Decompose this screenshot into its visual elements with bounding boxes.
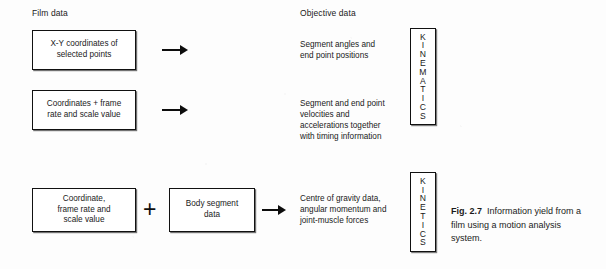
figure-caption: Fig. 2.7Information yield from a film us… bbox=[451, 205, 586, 246]
input-box-body-segment-data: Body segment data bbox=[169, 188, 255, 232]
right-arrow-icon-row3 bbox=[262, 205, 286, 215]
figure-caption-number: Fig. 2.7 bbox=[451, 206, 482, 216]
arrow-head bbox=[180, 105, 188, 115]
kinematics-letter-9: S bbox=[420, 112, 426, 121]
output-text-kinematics-row1: Segment angles and end point positions bbox=[300, 40, 408, 62]
arrow-shaft bbox=[262, 209, 279, 211]
figure-canvas: Film data Objective data X-Y coordinates… bbox=[0, 0, 606, 269]
arrow-shaft bbox=[162, 49, 181, 51]
category-label-kinematics: K I N E M A T I C S bbox=[410, 28, 436, 125]
plus-operator-icon: + bbox=[143, 198, 156, 221]
input-box-xy-coordinates: X-Y coordinates of selected points bbox=[32, 30, 136, 70]
arrow-head bbox=[278, 205, 286, 215]
category-label-kinetics: K I N E T I C S bbox=[410, 172, 436, 252]
input-box-coordinate-frame-rate-scale-label: Coordinate, frame rate and scale value bbox=[53, 194, 114, 226]
input-box-coordinate-frame-rate-scale: Coordinate, frame rate and scale value bbox=[32, 188, 136, 232]
right-arrow-icon-row2 bbox=[162, 105, 188, 115]
arrow-head bbox=[180, 45, 188, 55]
right-arrow-icon-row1 bbox=[162, 45, 188, 55]
kinetics-letter-7: S bbox=[420, 238, 426, 247]
input-box-coordinates-frame-rate: Coordinates + frame rate and scale value bbox=[32, 90, 136, 130]
input-box-xy-coordinates-label: X-Y coordinates of selected points bbox=[46, 39, 121, 61]
output-text-kinematics-row2: Segment and end point velocities and acc… bbox=[300, 99, 412, 143]
column-heading-film-data: Film data bbox=[32, 8, 68, 18]
column-heading-objective-data: Objective data bbox=[300, 8, 356, 18]
output-text-kinetics: Centre of gravity data, angular momentum… bbox=[300, 194, 412, 227]
arrow-shaft bbox=[162, 109, 181, 111]
input-box-body-segment-data-label: Body segment data bbox=[182, 199, 242, 221]
input-box-coordinates-frame-rate-label: Coordinates + frame rate and scale value bbox=[43, 99, 125, 121]
